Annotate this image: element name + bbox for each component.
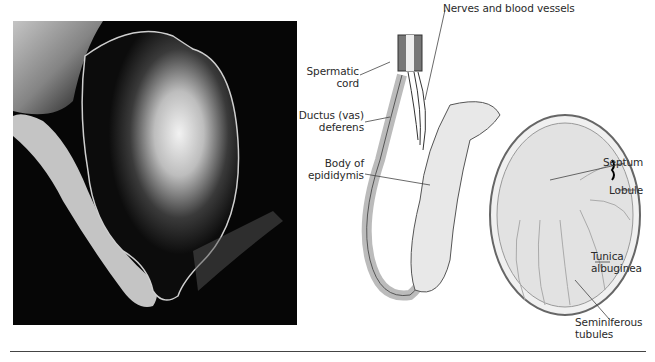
bottom-rule [10, 351, 646, 352]
label-ductus-deferens-1: Ductus (vas) [290, 109, 364, 121]
label-nerves-and-blood-vessels: Nerves and blood vessels [443, 2, 575, 14]
label-spermatic-cord-2: cord [290, 77, 359, 89]
label-spermatic-cord-1: Spermatic [290, 65, 359, 77]
label-seminiferous-tubules-1: Seminiferous [575, 316, 642, 328]
label-tunica-albuginea-1: Tunica [591, 250, 624, 262]
testis-photograph [13, 21, 297, 325]
label-ductus-deferens-2: deferens [290, 121, 364, 133]
label-septum: Septum [603, 156, 643, 168]
testis-diagram: Nerves and blood vessels Spermatic cord … [290, 0, 655, 362]
label-body-of-epididymis-2: epididymis [290, 169, 364, 181]
label-body-of-epididymis-1: Body of [290, 157, 364, 169]
label-lobule: Lobule [609, 184, 643, 196]
label-seminiferous-tubules-2: tubules [575, 328, 613, 340]
label-tunica-albuginea-2: albuginea [591, 262, 642, 274]
